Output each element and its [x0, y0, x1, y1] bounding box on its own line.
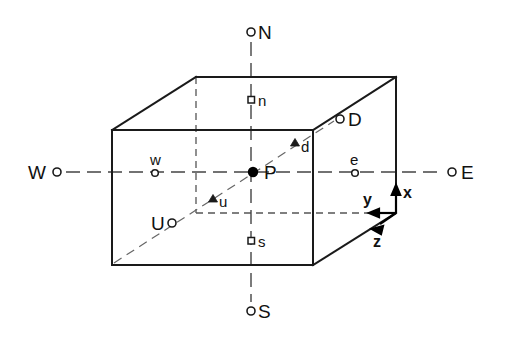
center-point-marker — [248, 167, 258, 177]
west-face-marker-icon — [152, 170, 159, 177]
east-face-marker-icon — [352, 170, 359, 177]
figure-canvas: N S W E U D n s w e u d P x y z — [0, 0, 506, 343]
east-face-label: e — [350, 151, 358, 168]
west-label: W — [28, 162, 46, 183]
south-face-label: s — [258, 233, 266, 250]
up-face-marker-icon — [209, 195, 218, 203]
y-axis-label: y — [363, 191, 372, 208]
up-label: U — [151, 213, 165, 234]
north-label: N — [258, 22, 272, 43]
north-face-label: n — [258, 92, 266, 109]
cube-edge-top-left-diagonal — [112, 77, 196, 130]
x-axis-arrowhead-icon — [392, 185, 400, 195]
up-marker-icon — [168, 219, 176, 227]
west-marker-icon — [53, 168, 61, 176]
south-face-marker-icon — [248, 238, 255, 245]
diagram-svg: N S W E U D n s w e u d P x y z — [0, 0, 506, 343]
down-label: D — [348, 109, 362, 130]
north-face-marker-icon — [248, 97, 255, 104]
east-label: E — [461, 162, 474, 183]
z-axis-label: z — [373, 233, 381, 250]
x-axis-label: x — [403, 184, 412, 201]
east-marker-icon — [448, 168, 456, 176]
y-axis-arrowhead-icon — [369, 209, 379, 217]
down-face-marker-icon — [291, 139, 300, 147]
down-face-label: d — [301, 138, 309, 155]
south-marker-icon — [247, 307, 255, 315]
north-marker-icon — [247, 28, 255, 36]
z-axis-line — [380, 213, 396, 224]
south-label: S — [258, 301, 271, 322]
west-face-label: w — [149, 151, 161, 168]
down-marker-icon — [336, 115, 344, 123]
center-point-label: P — [264, 162, 277, 183]
up-face-label: u — [219, 193, 227, 210]
